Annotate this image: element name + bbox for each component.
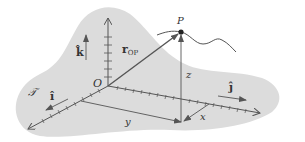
point-p-dot bbox=[178, 29, 183, 34]
reference-plane bbox=[16, 7, 280, 137]
unit-k-label: k̂ bbox=[75, 45, 84, 59]
z-coord-label: z bbox=[185, 69, 192, 80]
unit-j-label: ĵ bbox=[228, 81, 233, 94]
vector-subscript: OP bbox=[128, 49, 139, 57]
point-p-label: P bbox=[176, 15, 184, 26]
coordinate-diagram: 𝒯 O P rOP k̂ î ĵ z y x bbox=[0, 0, 305, 142]
origin-label: O bbox=[93, 77, 102, 90]
y-coord-label: y bbox=[124, 116, 131, 127]
x-coord-label: x bbox=[200, 111, 206, 122]
